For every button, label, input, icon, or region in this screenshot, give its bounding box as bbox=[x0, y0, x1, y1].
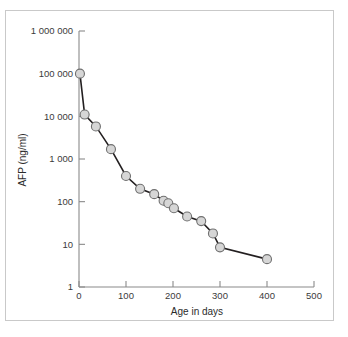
x-axis: 0100200300400500 Age in days bbox=[76, 281, 322, 317]
y-tick-label: 1 000 000 bbox=[31, 25, 73, 36]
data-point-marker bbox=[216, 243, 225, 252]
afp-decay-chart: 1101001 00010 000100 0001 000 000 AFP (n… bbox=[0, 0, 348, 337]
x-tick-label: 200 bbox=[165, 290, 181, 301]
data-point-marker bbox=[80, 110, 89, 119]
data-point-marker bbox=[136, 184, 145, 193]
y-axis-ticks: 1101001 00010 000100 0001 000 000 bbox=[31, 25, 85, 292]
x-axis-ticks: 0100200300400500 bbox=[76, 281, 322, 301]
chart-plot-area: 1101001 00010 000100 0001 000 000 AFP (n… bbox=[0, 0, 348, 337]
x-tick-label: 300 bbox=[212, 290, 228, 301]
y-tick-label: 10 bbox=[62, 239, 73, 250]
data-point-marker bbox=[106, 145, 115, 154]
data-point-marker bbox=[75, 69, 84, 78]
data-series-line bbox=[80, 74, 267, 259]
data-point-marker bbox=[263, 255, 272, 264]
y-tick-label: 1 000 bbox=[49, 153, 73, 164]
data-series-markers bbox=[75, 69, 271, 263]
y-tick-label: 100 000 bbox=[39, 68, 73, 79]
x-tick-label: 500 bbox=[306, 290, 322, 301]
y-axis-title: AFP (ng/ml) bbox=[17, 133, 28, 186]
x-tick-label: 400 bbox=[259, 290, 275, 301]
data-point-marker bbox=[169, 204, 178, 213]
data-point-marker bbox=[122, 171, 131, 180]
x-tick-label: 100 bbox=[118, 290, 134, 301]
y-tick-label: 100 bbox=[57, 196, 73, 207]
data-point-marker bbox=[183, 212, 192, 221]
data-point-marker bbox=[91, 122, 100, 131]
data-point-marker bbox=[150, 190, 159, 199]
y-axis: 1101001 00010 000100 0001 000 000 AFP (n… bbox=[17, 25, 85, 292]
x-tick-label: 0 bbox=[76, 290, 81, 301]
x-axis-title: Age in days bbox=[171, 306, 223, 317]
y-tick-label: 10 000 bbox=[44, 111, 73, 122]
y-tick-label: 1 bbox=[68, 281, 73, 292]
data-point-marker bbox=[197, 217, 206, 226]
data-point-marker bbox=[208, 229, 217, 238]
